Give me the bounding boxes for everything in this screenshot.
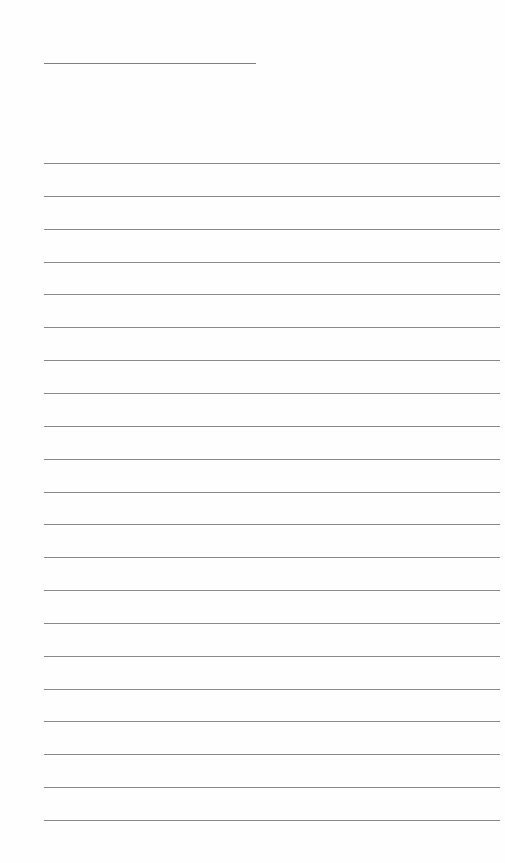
ruled-line bbox=[44, 754, 500, 755]
ruled-lines-container bbox=[44, 0, 500, 863]
ruled-line bbox=[44, 327, 500, 328]
ruled-line bbox=[44, 787, 500, 788]
ruled-line bbox=[44, 163, 500, 164]
ruled-line bbox=[44, 623, 500, 624]
ruled-line bbox=[44, 721, 500, 722]
ruled-line bbox=[44, 492, 500, 493]
ruled-line bbox=[44, 360, 500, 361]
ruled-line bbox=[44, 557, 500, 558]
ruled-line bbox=[44, 689, 500, 690]
ruled-line bbox=[44, 590, 500, 591]
ruled-line bbox=[44, 656, 500, 657]
ruled-line bbox=[44, 426, 500, 427]
ruled-line bbox=[44, 229, 500, 230]
lined-paper-page bbox=[0, 0, 505, 863]
ruled-line bbox=[44, 294, 500, 295]
ruled-line bbox=[44, 524, 500, 525]
ruled-line bbox=[44, 393, 500, 394]
ruled-line bbox=[44, 196, 500, 197]
ruled-line bbox=[44, 459, 500, 460]
ruled-line bbox=[44, 262, 500, 263]
ruled-line bbox=[44, 820, 500, 821]
